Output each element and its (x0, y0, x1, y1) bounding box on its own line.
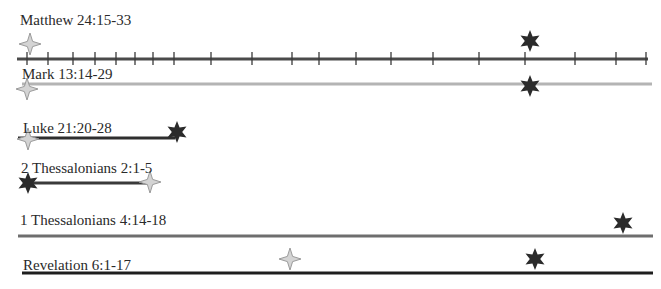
six-point-star-icon (521, 30, 540, 52)
label-matthew: Matthew 24:15-33 (20, 12, 131, 28)
label-luke: Luke 21:20-28 (23, 120, 112, 136)
label-revelation: Revelation 6:1-17 (23, 257, 131, 273)
label-mark: Mark 13:14-29 (22, 66, 112, 82)
four-point-star-icon (19, 33, 41, 55)
six-point-star-icon (521, 75, 540, 97)
label-1-thessalonians: 1 Thessalonians 4:14-18 (20, 212, 166, 228)
label-2-thessalonians: 2 Thessalonians 2:1-5 (21, 160, 152, 176)
six-point-star-icon (168, 121, 187, 143)
six-point-star-icon (526, 248, 545, 270)
timeline-lines (0, 0, 661, 289)
eschatology-timeline-diagram: Matthew 24:15-33 Mark 13:14-29 Luke 21:2… (0, 0, 661, 289)
six-point-star-icon (614, 212, 633, 234)
four-point-star-icon (279, 248, 301, 270)
timeline-row-matthew (17, 30, 648, 65)
